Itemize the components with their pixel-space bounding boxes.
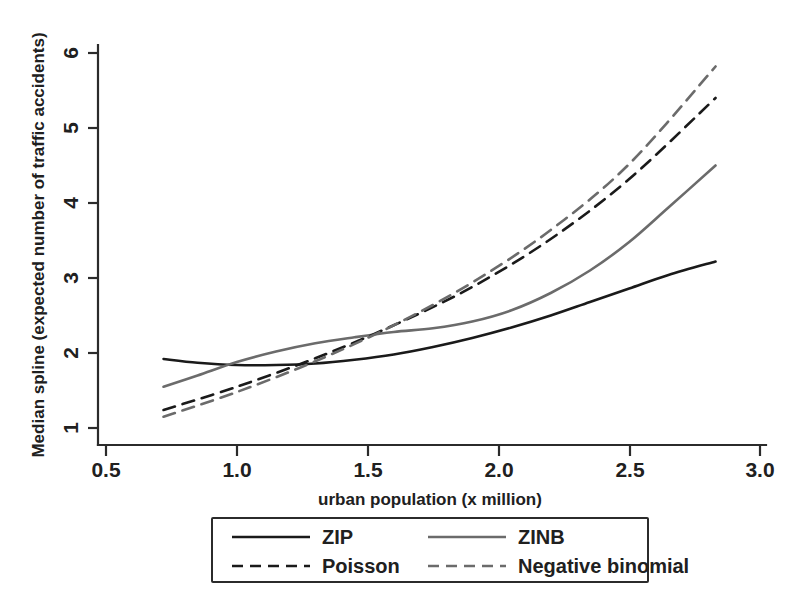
x-tick-label-2p5: 2.5 <box>615 458 645 481</box>
y-tick-label-3: 3 <box>59 272 82 284</box>
x-tick-label-1p0: 1.0 <box>222 458 251 481</box>
y-tick-label-2: 2 <box>59 347 82 359</box>
median-spline-chart: 6 5 4 3 2 1 Median spline (expected numb… <box>0 0 808 614</box>
x-tick-label-2p0: 2.0 <box>484 458 513 481</box>
y-tick-label-5: 5 <box>59 122 82 134</box>
chart-svg: 6 5 4 3 2 1 Median spline (expected numb… <box>0 0 808 614</box>
x-tick-label-1p5: 1.5 <box>353 458 383 481</box>
y-axis-title: Median spline (expected number of traffi… <box>29 32 48 457</box>
x-axis-title: urban population (x million) <box>318 490 542 509</box>
y-tick-label-4: 4 <box>59 197 82 209</box>
x-tick-label-0p5: 0.5 <box>91 458 121 481</box>
legend-label-poisson: Poisson <box>322 555 400 577</box>
y-tick-label-1: 1 <box>59 422 82 434</box>
y-tick-label-6: 6 <box>59 47 82 59</box>
chart-figure-root: 6 5 4 3 2 1 Median spline (expected numb… <box>0 0 808 614</box>
legend-label-zinb: ZINB <box>518 526 565 548</box>
chart-legend: ZIP ZINB Poisson Negative binomial <box>212 518 689 582</box>
legend-label-zip: ZIP <box>322 526 353 548</box>
legend-label-negative-binomial: Negative binomial <box>518 555 689 577</box>
x-tick-label-3p0: 3.0 <box>745 458 774 481</box>
